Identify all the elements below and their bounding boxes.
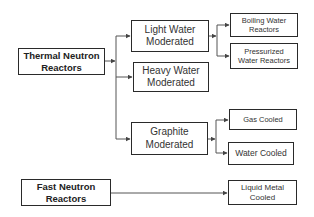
pressurized-water-reactors-node: Pressurized Water Reactors	[230, 43, 298, 69]
node-label: Light Water Moderated	[132, 24, 208, 49]
node-label: Heavy Water Moderated	[134, 65, 208, 90]
light-water-moderated-node: Light Water Moderated	[131, 20, 209, 52]
thermal-neutron-reactors-node: Thermal Neutron Reactors	[18, 48, 105, 75]
node-label: Water Cooled	[235, 148, 287, 159]
gas-cooled-node: Gas Cooled	[229, 109, 297, 130]
node-label: Boiling Water Reactors	[238, 16, 290, 35]
liquid-metal-cooled-node: Liquid Metal Cooled	[228, 180, 297, 205]
graphite-moderated-node: Graphite Moderated	[131, 122, 208, 155]
fast-neutron-reactors-node: Fast Neutron Reactors	[21, 179, 111, 206]
node-label: Liquid Metal Cooled	[237, 183, 289, 203]
node-label: Fast Neutron Reactors	[31, 181, 101, 205]
node-label: Gas Cooled	[243, 115, 283, 124]
heavy-water-moderated-node: Heavy Water Moderated	[133, 62, 209, 92]
water-cooled-node: Water Cooled	[228, 142, 294, 165]
node-label: Thermal Neutron Reactors	[19, 50, 104, 74]
boiling-water-reactors-node: Boiling Water Reactors	[230, 13, 298, 37]
node-label: Graphite Moderated	[142, 126, 198, 151]
node-label: Pressurized Water Reactors	[236, 47, 292, 66]
